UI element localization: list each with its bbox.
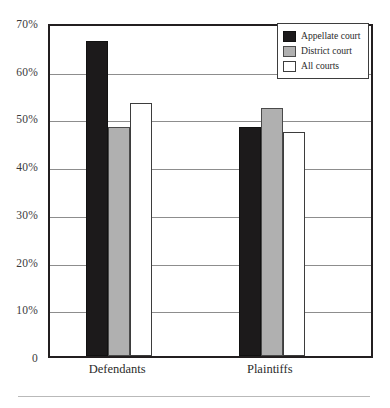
x-axis: DefendantsPlaintiffs (48, 362, 373, 384)
legend-item: Appellate court (283, 29, 363, 43)
y-tick-label: 50% (16, 113, 38, 125)
chart-legend: Appellate courtDistrict courtAll courts (277, 23, 369, 79)
y-axis: 010%20%30%40%50%60%70% (0, 24, 44, 358)
bar-plaintiffs-district-court (261, 108, 283, 356)
bar-defendants-all-courts (130, 103, 152, 356)
legend-item-label: District court (301, 46, 352, 56)
y-tick-label: 30% (16, 209, 38, 221)
bar-defendants-district-court (108, 127, 130, 356)
black-swatch (283, 31, 296, 42)
y-tick-label: 70% (16, 18, 38, 30)
legend-item: District court (283, 44, 363, 58)
y-tick-label: 0 (32, 352, 38, 364)
y-tick-label: 10% (16, 304, 38, 316)
legend-item-label: Appellate court (301, 31, 360, 41)
bar-plaintiffs-appellate-court (239, 127, 261, 356)
x-tick-label: Defendants (89, 362, 146, 377)
bar-chart-figure: 010%20%30%40%50%60%70% DefendantsPlainti… (0, 0, 390, 408)
legend-item: All courts (283, 59, 363, 73)
legend-item-label: All courts (301, 61, 339, 71)
gray-swatch (283, 46, 296, 57)
bar-plaintiffs-all-courts (283, 132, 305, 356)
y-tick-label: 40% (16, 161, 38, 173)
white-swatch (283, 61, 296, 72)
y-tick-label: 60% (16, 66, 38, 78)
bar-defendants-appellate-court (86, 41, 108, 356)
x-tick-label: Plaintiffs (247, 362, 293, 377)
y-tick-label: 20% (16, 257, 38, 269)
footer-divider (18, 396, 370, 397)
